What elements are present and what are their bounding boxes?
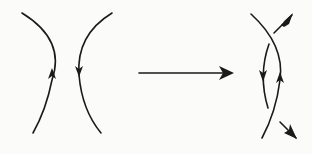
right-arc bbox=[79, 13, 112, 133]
outer-arc bbox=[251, 14, 281, 138]
transition-arrow bbox=[139, 66, 234, 80]
reconnection-diagram bbox=[0, 0, 312, 154]
right-panel bbox=[251, 13, 297, 139]
left-panel bbox=[22, 13, 112, 133]
arrowhead-down-right-icon bbox=[284, 124, 297, 139]
